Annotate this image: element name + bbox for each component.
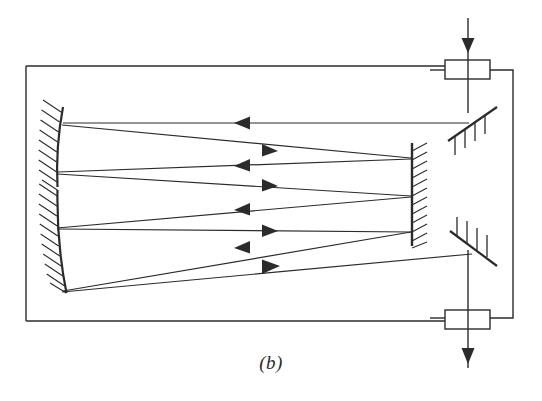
ray-7-in [63,232,411,291]
ray-1-in [63,117,469,130]
left-lower-concave-mirror [39,184,67,293]
figure-caption: (b) [0,352,542,374]
ray-3-arrowhead [234,159,250,172]
right-flat-mirror-hatching [412,143,427,248]
left-upper-mirror-surface [57,107,63,187]
ray-3-in [58,159,411,172]
ray-5-in [57,197,411,228]
bottom-steering-mirror [450,217,497,266]
top-steering-mirror [448,107,497,155]
left-upper-concave-mirror [39,100,63,190]
ray-2-out [62,125,411,158]
optics-diagram-canvas [0,0,542,401]
output-beam [462,250,475,368]
ray-7-arrowhead [234,241,250,254]
optics-figure: (b) [0,0,542,401]
right-flat-mirror [412,143,427,248]
ray-5-arrowhead [234,203,250,216]
ray-1-arrowhead [234,117,250,130]
input-beam [462,18,475,113]
ray-2-line [62,125,411,158]
cell-enclosure [26,66,513,321]
bottom-steering-mirror-surface [450,231,497,266]
ray-6-out [57,225,411,238]
ray-5-line [57,197,411,228]
left-lower-mirror-surface [57,190,66,293]
ray-4-arrowhead [262,179,278,192]
top-steering-mirror-hatching [455,115,485,155]
left-lower-mirror-hatching [39,184,66,293]
top-steering-mirror-surface [448,107,497,141]
ray-bundle [57,117,472,293]
ray-6-arrowhead [262,225,278,238]
input-beam-arrowhead [462,38,475,53]
ray-4-out [57,174,411,196]
ray-2-arrowhead [262,144,278,157]
ray-4-line [57,174,411,196]
ray-8-line [62,254,472,292]
ray-7-line [63,232,411,291]
bottom-steering-mirror-hatching [457,217,487,257]
ray-8-out [62,254,472,292]
ray-3-line [58,159,411,172]
enclosure-right-wall [490,70,513,318]
ray-6-line [57,229,411,232]
